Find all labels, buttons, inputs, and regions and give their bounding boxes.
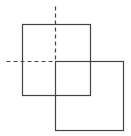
square-1 [23, 25, 91, 96]
diagram-canvas [0, 0, 131, 136]
overlapping-squares-diagram [0, 0, 131, 136]
